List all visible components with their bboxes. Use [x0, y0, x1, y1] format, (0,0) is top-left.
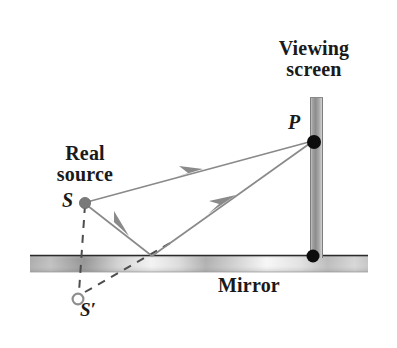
screen-base-dot: [307, 250, 320, 263]
point-p-dot: [307, 135, 321, 149]
real-source-label: Real source: [35, 143, 135, 185]
arrowhead-incident-ray: [103, 211, 129, 236]
real-source-label-line2: source: [57, 163, 113, 185]
screen-body: [310, 97, 323, 258]
dashed-vertical-drop: [79, 205, 85, 292]
real-source-dot: [79, 197, 90, 208]
point-s-label: S: [62, 190, 73, 211]
mirror-label: Mirror: [218, 275, 308, 296]
real-source-label-line1: Real: [65, 142, 105, 164]
incident-ray-S-to-mirror: [88, 206, 152, 256]
viewing-screen-label: Viewing screen: [255, 38, 373, 80]
point-s-prime-label: S′: [80, 300, 96, 320]
arrowhead-reflected-ray: [208, 195, 236, 214]
point-p-label: P: [288, 112, 300, 133]
viewing-screen-label-line2: screen: [286, 58, 341, 80]
construction-lines: [79, 205, 172, 292]
figure-canvas: Viewing screen Real source Mirror P S S′: [0, 0, 397, 348]
viewing-screen-label-line1: Viewing: [279, 37, 350, 59]
reflected-ray-mirror-to-P: [152, 144, 309, 256]
viewing-screen-bar: [310, 97, 323, 258]
